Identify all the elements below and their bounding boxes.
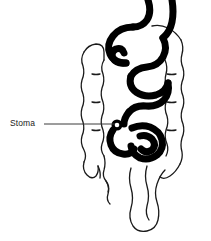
- stoma-label: Stoma: [10, 118, 35, 128]
- stoma-opening: [112, 120, 123, 131]
- small-intestine-loops: [109, 0, 173, 159]
- anatomical-figure: Stoma: [0, 0, 211, 241]
